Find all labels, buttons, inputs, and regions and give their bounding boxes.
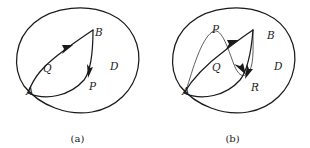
panel-a: A B P Q D (a) (0, 0, 155, 148)
label-point-q: Q (43, 63, 52, 74)
caption-a: (a) (0, 134, 155, 144)
label-region-d: D (110, 61, 118, 72)
label-point-a: A (26, 86, 34, 97)
panel-b: A B P Q R D (b) (155, 0, 310, 148)
label-point-p: P (89, 81, 96, 92)
label-point-p: P (212, 24, 219, 35)
figure-container: A B P Q D (a) (0, 0, 310, 148)
label-point-q: Q (212, 62, 221, 73)
curve-a-to-b-via-q (28, 30, 93, 93)
label-point-r: R (251, 82, 259, 93)
label-point-b: B (95, 27, 103, 38)
curve-a-to-b-via-p (28, 30, 93, 97)
label-region-d: D (274, 61, 282, 72)
caption-b: (b) (155, 134, 310, 144)
arrowhead-ab-icon (62, 45, 73, 54)
label-point-b: B (267, 30, 275, 41)
region-boundary-a (17, 8, 139, 113)
panel-b-drawing (155, 0, 310, 126)
label-point-a: A (182, 86, 190, 97)
panel-a-drawing (0, 0, 155, 126)
